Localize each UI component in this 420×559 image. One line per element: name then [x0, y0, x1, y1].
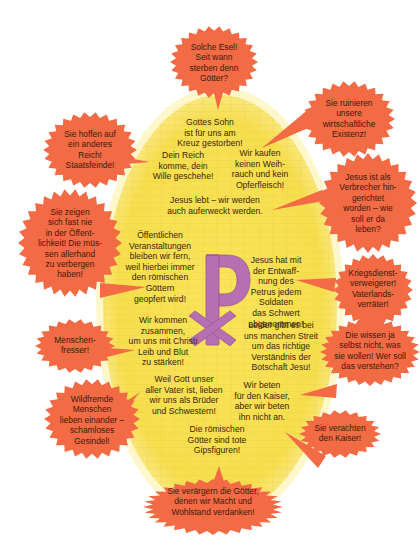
- statement-weihrauch: Wir kaufen keinen Weih- rauch und kein O…: [215, 148, 305, 190]
- statement-veranstaltungen: Öffentlichen Veranstaltungen bleiben wir…: [110, 230, 210, 304]
- accusation-staatsfeinde: Sie hoffen auf ein anderes Reich! Staats…: [50, 129, 130, 171]
- statement-entwaffnung: Jesus hat mit der Entwaff- nung des Petr…: [237, 255, 315, 329]
- statement-zusammen: Wir kommen zusammen, um uns mit Christi …: [115, 315, 211, 368]
- statement-gottes-sohn: Gottes Sohn ist für uns am Kreuz gestorb…: [165, 117, 255, 149]
- accusation-menschenfresser: Menschen- fresser!: [40, 335, 110, 356]
- accusation-esel: Solche Esel! Seit wann sterben denn Gött…: [174, 42, 254, 84]
- accusation-verstehen: Die wissen ja selbst nicht, was sie woll…: [325, 330, 415, 372]
- statement-jesus-lebt: Jesus lebt – wir werden auch auferweckt …: [150, 195, 280, 216]
- accusation-verbrecher: Jesus ist als Verbrecher hin- gerichtet …: [326, 172, 410, 234]
- statement-streit: Leider gibt es bei uns manchen Streit um…: [226, 320, 336, 373]
- statement-gipsfiguren: Die römischen Götter sind tote Gipsfigur…: [172, 424, 262, 456]
- accusation-verachten: Sie verachten den Kaiser!: [302, 423, 378, 444]
- accusation-oeffentlichkeit: Sie zeigen sich fast nie in der Öffent- …: [25, 207, 115, 280]
- accusation-gesindel: Wildfremde Menschen lieben einander – sc…: [50, 394, 134, 446]
- statement-kaiser: Wir beten für den Kaiser, aber wir beten…: [222, 380, 302, 422]
- accusation-existenz: Sie ruinieren unsere wirtschaftliche Exi…: [307, 98, 391, 140]
- accusation-veraergern: Sie verärgern die Götter, denen wir Mach…: [153, 486, 273, 517]
- diagram-stage: Gottes Sohn ist für uns am Kreuz gestorb…: [0, 0, 420, 559]
- accusation-kriegsdienst: Kriegsdienst- verweigerer! Vaterlands- v…: [338, 268, 408, 310]
